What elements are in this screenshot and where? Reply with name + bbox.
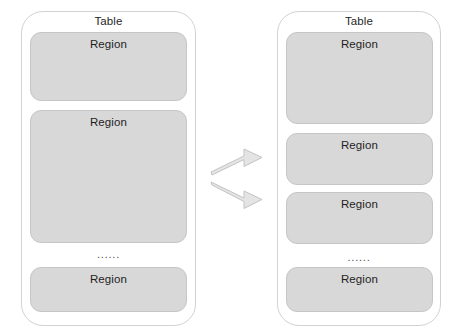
left-table-title: Table <box>22 14 195 28</box>
right-table-region-4: Region <box>286 267 433 312</box>
right-table-region-3-label: Region <box>287 197 432 211</box>
arrow-upper-right <box>211 149 262 175</box>
left-table-region-2: Region <box>30 110 187 243</box>
left-table-region-2-label: Region <box>31 115 186 129</box>
arrow-lower-right <box>211 182 262 209</box>
left-table-ellipsis: ...... <box>22 249 195 259</box>
right-table-region-1-label: Region <box>287 37 432 51</box>
right-table-region-3: Region <box>286 192 433 244</box>
right-table-region-1: Region <box>286 32 433 124</box>
left-table-region-3-label: Region <box>31 272 186 286</box>
right-table-ellipsis: ...... <box>278 252 440 262</box>
right-table-container: Table Region Region Region ...... Region <box>277 11 441 326</box>
left-table-container: Table Region Region ...... Region <box>21 11 196 326</box>
split-arrows-group <box>206 143 270 215</box>
right-table-region-4-label: Region <box>287 272 432 286</box>
left-table-region-1: Region <box>30 32 187 101</box>
left-table-region-3: Region <box>30 267 187 312</box>
right-table-title: Table <box>278 14 440 28</box>
left-table-region-1-label: Region <box>31 37 186 51</box>
diagram-canvas: Table Region Region ...... Region <box>0 0 464 336</box>
right-table-region-2: Region <box>286 133 433 185</box>
right-table-region-2-label: Region <box>287 138 432 152</box>
